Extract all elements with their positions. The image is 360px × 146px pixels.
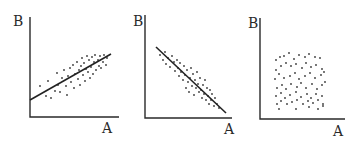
data-point xyxy=(323,71,325,73)
data-point xyxy=(312,102,314,104)
data-point xyxy=(100,67,102,69)
data-point xyxy=(301,67,303,69)
data-point xyxy=(188,91,190,93)
data-point xyxy=(285,88,287,90)
data-point xyxy=(316,88,318,90)
data-point xyxy=(321,68,323,70)
data-point xyxy=(308,53,310,55)
data-point xyxy=(322,103,324,105)
data-point xyxy=(95,69,97,71)
data-point xyxy=(84,80,86,82)
data-point xyxy=(86,55,88,57)
data-point xyxy=(291,101,293,103)
data-point xyxy=(280,100,282,102)
data-point xyxy=(283,55,285,57)
data-point xyxy=(276,87,278,89)
data-point xyxy=(81,57,83,59)
axes xyxy=(30,17,119,117)
data-point xyxy=(278,108,280,110)
data-point xyxy=(102,61,104,63)
data-point xyxy=(92,73,94,75)
data-point xyxy=(275,95,277,97)
data-point xyxy=(195,87,197,89)
data-point xyxy=(197,83,199,85)
data-point xyxy=(279,56,281,58)
data-point xyxy=(286,103,288,105)
chart-negative-correlation: B A xyxy=(133,13,235,137)
data-point xyxy=(198,91,200,93)
data-point xyxy=(171,55,173,57)
data-point xyxy=(205,99,207,101)
data-point xyxy=(276,103,278,105)
data-point xyxy=(204,79,206,81)
data-point xyxy=(89,77,91,79)
data-point xyxy=(306,93,308,95)
data-point xyxy=(182,79,184,81)
data-point xyxy=(294,72,296,74)
data-point xyxy=(185,87,187,89)
regression-line xyxy=(30,54,111,100)
data-point xyxy=(67,75,69,77)
data-point xyxy=(289,75,291,77)
data-point xyxy=(50,97,52,99)
data-point xyxy=(280,92,282,94)
data-point xyxy=(300,96,302,98)
data-point xyxy=(275,69,277,71)
data-point xyxy=(296,99,298,101)
data-point xyxy=(304,56,306,58)
data-point xyxy=(77,78,79,80)
data-point xyxy=(208,103,210,105)
regression-line xyxy=(156,47,226,113)
scatter-points xyxy=(159,51,220,109)
data-point xyxy=(317,99,319,101)
data-point xyxy=(284,97,286,99)
data-point xyxy=(193,94,195,96)
data-point xyxy=(283,77,285,79)
y-axis-label: B xyxy=(248,15,258,31)
data-point xyxy=(169,66,171,68)
scatter-points xyxy=(274,52,326,110)
data-point xyxy=(296,86,298,88)
data-point xyxy=(63,69,65,71)
x-axis-label: A xyxy=(101,120,113,136)
scatter-plots-figure: B A B A B A xyxy=(0,0,360,146)
data-point xyxy=(98,65,100,67)
data-point xyxy=(176,59,178,61)
data-point xyxy=(72,64,74,66)
data-point xyxy=(83,62,85,64)
data-point xyxy=(61,77,63,79)
data-point xyxy=(315,64,317,66)
data-point xyxy=(285,62,287,64)
data-point xyxy=(78,69,80,71)
data-point xyxy=(76,61,78,63)
data-point xyxy=(307,100,309,102)
data-point xyxy=(274,78,276,80)
data-point xyxy=(288,52,290,54)
data-point xyxy=(214,97,216,99)
y-axis-label: B xyxy=(13,13,23,29)
data-point xyxy=(79,84,81,86)
data-point xyxy=(178,75,180,77)
data-point xyxy=(278,73,280,75)
data-point xyxy=(211,93,213,95)
data-point xyxy=(314,77,316,79)
data-point xyxy=(304,75,306,77)
data-point xyxy=(183,65,185,67)
data-point xyxy=(69,67,71,69)
data-point xyxy=(275,59,277,61)
data-point xyxy=(190,67,192,69)
y-axis-label: B xyxy=(133,13,143,29)
data-point xyxy=(202,84,204,86)
data-point xyxy=(82,74,84,76)
data-point xyxy=(305,62,307,64)
data-point xyxy=(99,55,101,57)
data-point xyxy=(280,65,282,67)
data-point xyxy=(165,63,167,65)
data-point xyxy=(87,71,89,73)
data-point xyxy=(174,70,176,72)
data-point xyxy=(164,51,166,53)
data-point xyxy=(45,95,47,97)
x-axis-label: A xyxy=(332,123,344,139)
data-point xyxy=(209,89,211,91)
data-point xyxy=(310,66,312,68)
